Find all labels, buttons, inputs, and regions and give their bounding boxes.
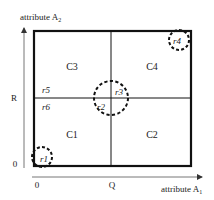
region-label-r5: r5	[42, 85, 51, 95]
y-axis-title-sub: 2	[58, 17, 61, 23]
cell-label-c1: C1	[66, 129, 78, 140]
x-axis-title-text: attribute A	[161, 184, 200, 194]
y-tick-0: 0	[13, 159, 18, 169]
cell-label-c4: C4	[146, 61, 158, 72]
region-label-r4: r4	[173, 36, 182, 46]
y-axis-title: attribute A2	[20, 12, 61, 23]
y-axis-title-text: attribute A	[20, 12, 59, 22]
region-label-r1: r1	[40, 154, 48, 164]
region-label-r3: r3	[115, 87, 124, 97]
x-axis-title: attribute A1	[161, 184, 202, 195]
partition-diagram: C3 C4 C1 C2 r1 r2 r3 r4 r5 r6 0 Q 0 R at…	[0, 0, 214, 200]
region-label-r6: r6	[42, 102, 51, 112]
x-tick-0: 0	[35, 180, 40, 190]
x-axis-title-sub: 1	[199, 189, 202, 195]
cell-label-c2: C2	[146, 129, 158, 140]
x-tick-q: Q	[109, 180, 116, 190]
region-label-r2: r2	[97, 102, 106, 112]
cell-label-c3: C3	[66, 61, 78, 72]
y-tick-r: R	[11, 93, 17, 103]
